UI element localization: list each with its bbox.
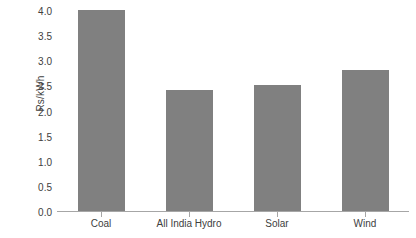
x-axis-category-label: Wind (321, 218, 409, 234)
x-tick-slot (233, 212, 321, 217)
x-axis-tick-mark (189, 212, 190, 217)
bar[interactable] (254, 85, 301, 211)
bar-slot (321, 10, 409, 211)
y-axis-tick-label: 0.5 (26, 181, 52, 192)
y-axis-tick-labels: 0.00.51.01.52.02.53.03.54.0 (26, 10, 52, 212)
bar-slot (233, 10, 321, 211)
bar[interactable] (342, 70, 389, 211)
bar-slot (145, 10, 233, 211)
bar-slot (57, 10, 145, 211)
bar-chart: Rs/kWh 0.00.51.01.52.02.53.03.54.0 CoalA… (0, 0, 416, 238)
bar[interactable] (166, 90, 213, 211)
x-axis-ticks (57, 212, 409, 217)
x-axis-tick-mark (101, 212, 102, 217)
y-axis-tick-label: 3.0 (26, 56, 52, 67)
x-axis-category-label: Coal (57, 218, 145, 234)
x-axis-tick-mark (365, 212, 366, 217)
x-axis-category-label: Solar (233, 218, 321, 234)
x-tick-slot (57, 212, 145, 217)
y-axis-tick-label: 0.0 (26, 207, 52, 218)
y-axis-tick-label: 3.5 (26, 31, 52, 42)
x-axis-category-labels: CoalAll India HydroSolarWind (57, 218, 409, 234)
x-tick-slot (145, 212, 233, 217)
y-axis-tick-label: 2.5 (26, 81, 52, 92)
x-axis-category-label: All India Hydro (145, 218, 233, 234)
y-axis-tick-label: 4.0 (26, 6, 52, 17)
x-axis-tick-mark (277, 212, 278, 217)
y-axis-tick-label: 1.5 (26, 131, 52, 142)
plot-area (57, 10, 409, 212)
bar[interactable] (78, 10, 125, 211)
y-axis-tick-label: 2.0 (26, 106, 52, 117)
y-axis-tick-label: 1.0 (26, 156, 52, 167)
x-tick-slot (321, 212, 409, 217)
bars-layer (57, 10, 409, 211)
